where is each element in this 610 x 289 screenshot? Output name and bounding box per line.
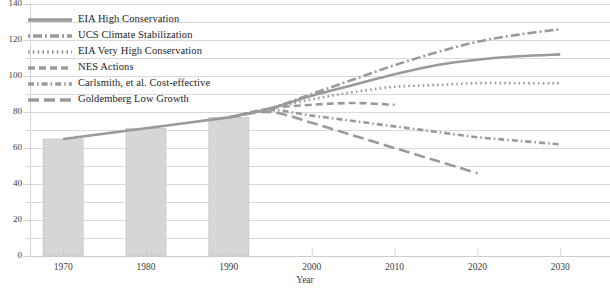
x-axis-tick-label: 2000 xyxy=(292,262,332,272)
line-series-group xyxy=(229,29,560,173)
y-axis-tick-label: 80 xyxy=(2,107,22,116)
x-axis-tick-label: 2020 xyxy=(457,262,497,272)
line-series xyxy=(229,110,560,144)
x-axis-tick-label: 2030 xyxy=(540,262,580,272)
legend-line-swatch xyxy=(28,92,72,104)
y-axis-tick-label: 40 xyxy=(2,179,22,188)
legend-item-label: EIA Very High Conservation xyxy=(78,45,202,56)
legend-item-label: Goldemberg Low Growth xyxy=(78,93,189,104)
y-axis-tick-label: 20 xyxy=(2,215,22,224)
y-axis-tick-label: 120 xyxy=(2,35,22,44)
x-axis xyxy=(30,248,610,257)
legend-line-swatch xyxy=(28,44,72,56)
x-axis-tick-label: 1980 xyxy=(126,262,166,272)
y-axis-tick-label: 100 xyxy=(2,71,22,80)
legend-item-label: UCS Climate Stabilization xyxy=(78,29,193,40)
legend-line-swatch xyxy=(28,12,72,24)
x-axis-title: Year xyxy=(0,275,610,285)
y-axis-tick-label: 60 xyxy=(2,143,22,152)
legend-item-label: NES Actions xyxy=(78,61,134,72)
y-axis-tick-label: 0 xyxy=(2,251,22,260)
x-axis-tick-label: 1990 xyxy=(209,262,249,272)
legend-item-label: EIA High Conservation xyxy=(78,13,179,24)
bar xyxy=(126,128,166,256)
legend-item[interactable]: NES Actions xyxy=(28,58,268,74)
legend-line-swatch xyxy=(28,76,72,88)
legend-item-label: Carlsmith, et al. Cost-effective xyxy=(78,77,210,88)
legend-item[interactable]: Carlsmith, et al. Cost-effective xyxy=(28,74,268,90)
legend-item[interactable]: Goldemberg Low Growth xyxy=(28,90,268,106)
chart-legend: EIA High ConservationUCS Climate Stabili… xyxy=(28,10,268,106)
bar xyxy=(43,139,83,256)
legend-item[interactable]: EIA High Conservation xyxy=(28,10,268,26)
legend-item[interactable]: UCS Climate Stabilization xyxy=(28,26,268,42)
chart-container: 140120100806040200 197019801990200020102… xyxy=(0,0,610,289)
legend-item[interactable]: EIA Very High Conservation xyxy=(28,42,268,58)
legend-line-swatch xyxy=(28,60,72,72)
legend-line-swatch xyxy=(28,28,72,40)
x-axis-tick-label: 1970 xyxy=(43,262,83,272)
y-axis-tick-label: 140 xyxy=(2,0,22,8)
x-axis-tick-label: 2010 xyxy=(375,262,415,272)
bar xyxy=(209,117,249,256)
